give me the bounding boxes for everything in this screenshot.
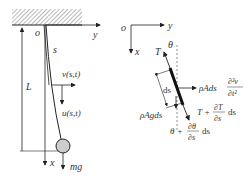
tension-end-suffix: ds — [228, 107, 237, 117]
string-curve — [46, 25, 61, 139]
tension-label: T — [155, 46, 162, 57]
frame-y-label: y — [167, 20, 173, 31]
length-label: L — [25, 81, 32, 92]
inertia-force-prefix: ρAds — [198, 83, 217, 93]
tension-end-den: ∂s — [214, 114, 221, 123]
tension-end-num: ∂T — [214, 103, 223, 112]
origin-label: o — [35, 27, 40, 38]
u-label: u(s,t) — [62, 108, 81, 118]
gravity-force-label: ρAgds — [139, 110, 163, 120]
tension-arrow — [164, 52, 170, 68]
pendulum-mass — [56, 139, 70, 153]
v-label: v(s,t) — [62, 69, 80, 79]
string-element — [170, 68, 183, 105]
y-axis-label: y — [92, 29, 98, 40]
left-diagram: o y x L s v(s,t) u(s,t) mg — [12, 9, 100, 172]
arc-length-label: s — [53, 44, 57, 55]
inertia-force-num: ∂²v — [228, 77, 238, 86]
ds-label: ds — [163, 85, 172, 95]
angle-end-den: ∂s — [188, 133, 195, 142]
ds-dimension-top — [155, 70, 170, 75]
angle-end-num: ∂θ — [188, 122, 196, 131]
ds-dimension-bottom — [166, 103, 182, 108]
right-diagram: o y x T θ ds ρAds ∂²v ∂t² ρAgds T + ∂T ∂… — [121, 20, 243, 142]
ceiling-hatch — [12, 9, 82, 25]
angle-end-prefix: θ + — [170, 126, 183, 136]
inertia-force-den: ∂t² — [228, 89, 237, 98]
x-axis-label: x — [49, 157, 55, 168]
frame-x-label: x — [134, 46, 140, 57]
pendulum-string-diagram: o y x L s v(s,t) u(s,t) mg o y x — [0, 0, 252, 182]
tension-end-prefix: T + — [197, 107, 210, 117]
frame-origin-label: o — [121, 22, 126, 33]
angle-end-suffix: ds — [202, 126, 211, 136]
weight-label: mg — [70, 161, 82, 172]
angle-label: θ — [168, 39, 173, 50]
tension-end-arrow — [183, 105, 189, 120]
